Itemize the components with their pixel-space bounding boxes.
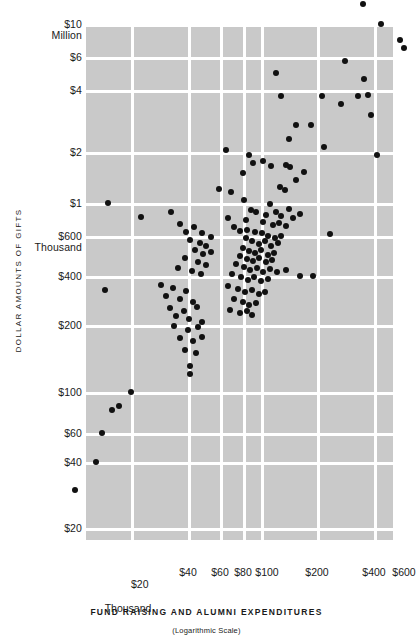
data-point [189, 268, 195, 274]
data-point [225, 283, 231, 289]
data-point [203, 262, 209, 268]
data-point [278, 93, 284, 99]
data-point [260, 219, 266, 225]
data-point [263, 212, 269, 218]
data-point [182, 347, 188, 353]
data-point [293, 177, 299, 183]
data-point [365, 92, 371, 98]
data-point [258, 247, 264, 253]
data-point [203, 243, 209, 249]
data-point [267, 266, 273, 272]
y-axis-title: DOLLAR AMOUNTS OF GIFTS [14, 213, 23, 353]
data-point [397, 37, 403, 43]
data-point [158, 282, 164, 288]
data-point [190, 338, 196, 344]
data-point [250, 160, 256, 166]
data-point [286, 136, 292, 142]
data-point [238, 274, 244, 280]
data-point [223, 147, 229, 153]
data-point [310, 273, 316, 279]
data-point [128, 389, 134, 395]
data-point [276, 220, 282, 226]
data-point [109, 407, 115, 413]
data-point [208, 249, 214, 255]
data-point-layer [86, 24, 393, 540]
data-point [170, 285, 176, 291]
data-point [195, 324, 201, 330]
data-point [321, 144, 327, 150]
data-point [301, 169, 307, 175]
data-point [231, 296, 237, 302]
x-tick-600k: $600 [392, 566, 415, 578]
data-point [105, 200, 111, 206]
data-point [237, 253, 243, 259]
data-point [278, 213, 284, 219]
data-point [138, 214, 144, 220]
y-tick-400k: $400 [0, 271, 82, 282]
data-point [237, 228, 243, 234]
data-point [216, 186, 222, 192]
y-tick-600k: $600 Thousand [0, 231, 82, 253]
data-point [378, 21, 384, 27]
data-point [233, 261, 239, 267]
data-point [182, 255, 188, 261]
y-tick-200k: $200 [0, 320, 82, 331]
data-point [247, 267, 253, 273]
data-point [282, 187, 288, 193]
data-point [187, 237, 193, 243]
x-tick-80k: $80 [234, 566, 252, 578]
data-point [177, 335, 183, 341]
y-tick-6million: $6 [0, 52, 82, 63]
y-axis-tick-labels: $10 Million $6 $4 $2 $1 $600 Thousand $4… [0, 0, 82, 640]
data-point [260, 269, 266, 275]
data-point [401, 45, 407, 51]
data-point [249, 287, 255, 293]
data-point [374, 152, 380, 158]
data-point [187, 371, 193, 377]
data-point [246, 152, 252, 158]
data-point [186, 316, 192, 322]
data-point [193, 350, 199, 356]
data-point [327, 231, 333, 237]
scale-note: (Logarithmic Scale) [0, 626, 413, 635]
data-point [290, 215, 296, 221]
data-point [267, 201, 273, 207]
data-point [256, 255, 262, 261]
data-point [249, 238, 255, 244]
x-tick-40k: $40 [179, 566, 197, 578]
x-tick-20k-label: $20 [131, 578, 149, 590]
data-point [253, 209, 259, 215]
data-point [274, 269, 280, 275]
data-point [297, 273, 303, 279]
data-point [227, 307, 233, 313]
data-point [250, 258, 256, 264]
data-point [254, 265, 260, 271]
data-point [244, 227, 250, 233]
data-point [187, 363, 193, 369]
data-point [241, 197, 247, 203]
x-tick-200k: $200 [305, 566, 328, 578]
data-point [319, 93, 325, 99]
data-point [183, 288, 189, 294]
y-tick-2million: $2 [0, 147, 82, 158]
data-point [198, 271, 204, 277]
data-point [93, 459, 99, 465]
data-point [102, 287, 108, 293]
data-point [199, 230, 205, 236]
data-point [342, 58, 348, 64]
data-point [181, 308, 187, 314]
y-tick-10million: $10 Million [0, 19, 82, 41]
data-point [297, 211, 303, 217]
data-point [262, 289, 268, 295]
y-tick-60k: $60 [0, 428, 82, 439]
data-point [185, 327, 191, 333]
data-point [268, 243, 274, 249]
data-point [293, 122, 299, 128]
data-point [361, 76, 367, 82]
data-point [168, 209, 174, 215]
data-point [191, 224, 197, 230]
data-point [163, 293, 169, 299]
data-point [286, 206, 292, 212]
data-point [231, 224, 237, 230]
